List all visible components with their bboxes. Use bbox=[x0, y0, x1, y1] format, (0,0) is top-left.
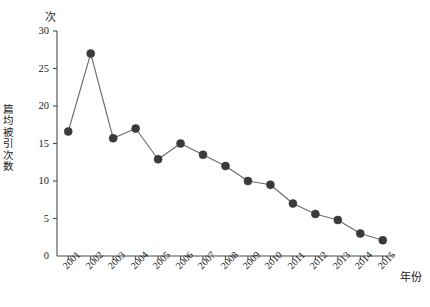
data-point-marker bbox=[154, 155, 162, 163]
data-point-marker bbox=[222, 162, 230, 170]
data-point-marker bbox=[199, 151, 207, 159]
data-point-marker bbox=[379, 236, 387, 244]
data-point-marker bbox=[132, 125, 140, 133]
data-point-marker bbox=[289, 200, 297, 208]
y-axis-tick-label: 25 bbox=[21, 64, 49, 75]
y-axis-tick-label: 5 bbox=[21, 214, 49, 225]
y-axis-tick-label: 10 bbox=[21, 176, 49, 187]
data-point-marker bbox=[266, 181, 274, 189]
data-point-marker bbox=[311, 210, 319, 218]
data-point-marker bbox=[64, 128, 72, 136]
data-point-marker bbox=[356, 230, 364, 238]
data-line bbox=[68, 54, 383, 241]
y-axis-tick-label: 20 bbox=[21, 101, 49, 112]
y-axis-tick-label: 15 bbox=[21, 139, 49, 150]
data-point-marker bbox=[87, 50, 95, 58]
y-axis-tick-label: 30 bbox=[21, 26, 49, 37]
data-point-marker bbox=[177, 140, 185, 148]
data-point-marker bbox=[334, 216, 342, 224]
data-point-marker bbox=[244, 177, 252, 185]
citation-trend-chart: 次 篇均被引次数 年份 051015202530 200120022003200… bbox=[0, 0, 430, 307]
y-axis-tick-label: 0 bbox=[21, 251, 49, 262]
data-point-marker bbox=[109, 134, 117, 142]
